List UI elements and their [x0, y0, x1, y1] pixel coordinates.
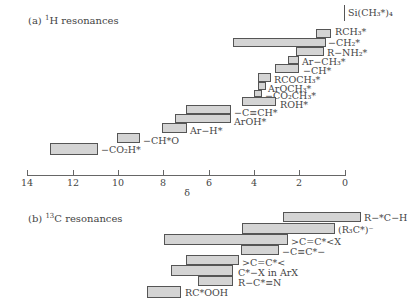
bar-c-alkene — [186, 255, 239, 265]
bar-c-r3c — [242, 223, 335, 234]
bar-aroh — [175, 114, 231, 123]
bar-cho — [117, 133, 140, 143]
bar-c-arx — [171, 265, 233, 276]
label-arh: Ar−H* — [190, 126, 222, 136]
panel-a-title-prefix: (a) — [28, 15, 45, 26]
panel-b-title-prefix: (b) — [28, 213, 45, 224]
x-tick-label: 14 — [21, 177, 33, 188]
x-tick — [345, 170, 346, 175]
bar-co2h — [50, 143, 98, 155]
label-aroh: ArOH* — [234, 117, 266, 127]
label-roh: ROH* — [280, 100, 308, 110]
label-co2h: −CO₂H* — [101, 145, 141, 155]
bar-ch2 — [233, 38, 326, 47]
bar-c-ccx — [164, 234, 288, 245]
x-tick — [209, 170, 210, 175]
x-tick — [118, 170, 119, 175]
label-rch3: RCH₃* — [335, 27, 366, 37]
x-tick-label: 10 — [112, 177, 124, 188]
bar-rcoch3 — [258, 73, 271, 82]
bar-arh — [162, 123, 187, 133]
bar-aroch3 — [258, 82, 266, 90]
label-c-rch: R−*C−H — [364, 213, 407, 223]
panel-a-title-rest: H resonances — [49, 15, 118, 26]
x-tick — [73, 170, 74, 175]
bar-arch3 — [288, 56, 299, 64]
x-tick — [163, 170, 164, 175]
bar-c-alkyne — [241, 245, 279, 255]
panel-b-title: (b) 13C resonances — [28, 212, 123, 224]
x-tick — [254, 170, 255, 175]
x-axis-label: δ — [184, 187, 190, 198]
x-tick-label: 4 — [251, 177, 257, 188]
label-si: Si(CH₃*)₄ — [348, 8, 393, 18]
panel-a-title: (a) 1H resonances — [28, 14, 119, 26]
label-cho: −CH*O — [143, 136, 179, 146]
tms-marker — [344, 5, 345, 21]
bar-co2ch3 — [254, 90, 262, 97]
bar-c-rch — [283, 212, 361, 222]
bar-c-nitrile — [198, 276, 233, 286]
x-tick-label: 12 — [67, 177, 79, 188]
label-c-r3c: (R₃C*)⁻ — [338, 225, 373, 235]
label-c-nitrile: R−C*≡N — [238, 278, 281, 288]
x-tick — [27, 170, 28, 175]
label-c-alkyne: −C≡C*− — [282, 247, 325, 257]
bar-cch — [186, 105, 231, 114]
label-c-cooh: RC*OOH — [185, 288, 228, 298]
x-tick — [299, 170, 300, 175]
x-tick-label: 0 — [342, 177, 348, 188]
bar-rnh2 — [296, 47, 324, 56]
bar-ch — [275, 64, 299, 73]
x-tick-label: 2 — [296, 177, 302, 188]
x-axis — [27, 175, 346, 176]
bar-c-cooh — [147, 286, 181, 298]
panel-b-title-rest: C resonances — [54, 213, 122, 224]
x-tick-label: 6 — [206, 177, 212, 188]
bar-roh — [242, 97, 276, 106]
x-tick-label: 8 — [160, 177, 166, 188]
panel-b-title-sup: 13 — [45, 212, 54, 220]
